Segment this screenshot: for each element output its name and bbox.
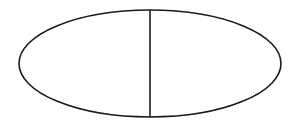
- diagram-canvas: [0, 0, 299, 125]
